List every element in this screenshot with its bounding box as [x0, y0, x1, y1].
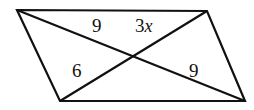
- geometry-figure: 9 3x 6 9: [0, 0, 254, 110]
- segment-label-coefficient: 3: [135, 15, 145, 36]
- segment-label-variable: x: [145, 16, 153, 36]
- segment-label-bottom-right: 9: [189, 61, 199, 80]
- segment-label-bottom-left: 6: [72, 61, 82, 80]
- segment-label-top-right: 3x: [135, 16, 153, 35]
- segment-label-top-left: 9: [92, 16, 102, 35]
- parallelogram-diagram: [0, 0, 254, 110]
